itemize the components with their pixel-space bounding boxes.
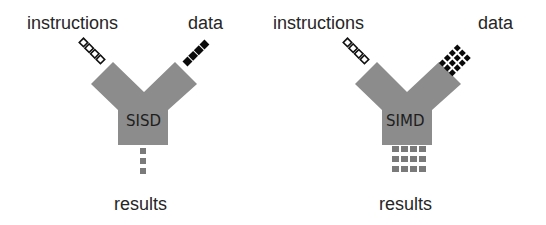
sisd-instruction-stream: [79, 38, 104, 63]
sisd-results-label: results: [114, 195, 167, 213]
simd-instruction-stream: [343, 38, 368, 63]
simd-panel: [343, 38, 470, 172]
simd-data-label: data: [478, 14, 513, 32]
sisd-panel: [79, 38, 209, 174]
simd-results-label: results: [379, 195, 432, 213]
sisd-core-label: SISD: [126, 114, 161, 129]
simd-results-stream: [392, 146, 426, 172]
sisd-instructions-label: instructions: [27, 14, 118, 32]
sisd-data-stream: [183, 40, 210, 67]
simd-core-label: SIMD: [386, 114, 424, 129]
simd-instructions-label: instructions: [273, 14, 364, 32]
flynn-taxonomy-diagram: [0, 0, 546, 225]
sisd-core-shape: [91, 62, 197, 145]
simd-core-shape: [355, 62, 461, 145]
sisd-data-label: data: [188, 14, 223, 32]
sisd-results-stream: [140, 148, 146, 174]
